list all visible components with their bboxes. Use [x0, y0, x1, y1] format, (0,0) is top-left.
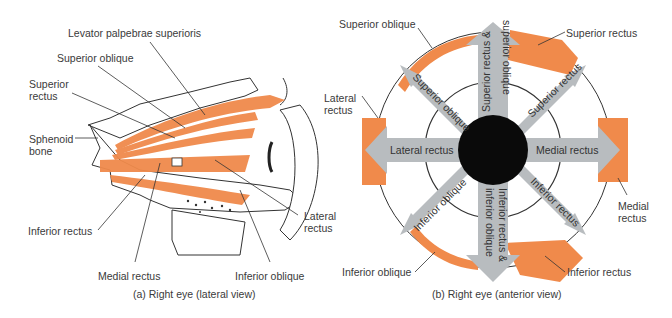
- arrow-label-up-left: Superior oblique: [411, 71, 474, 134]
- arrow-label-up-2: superior oblique: [501, 20, 513, 95]
- label-inferior-rectus-b: Inferior rectus: [567, 266, 631, 278]
- label-lateral-rectus-b-2: rectus: [324, 104, 353, 116]
- label-lateral-rectus-a-1: Lateral: [304, 210, 336, 222]
- arrow-label-left: Lateral rectus: [390, 144, 454, 156]
- extraocular-muscles-figure: Superior rectus & superior oblique Super…: [0, 0, 672, 318]
- label-levator-palpebrae: Levator palpebrae superioris: [68, 27, 201, 39]
- label-superior-rectus-b: Superior rectus: [566, 27, 637, 39]
- arrow-label-up-1: Superior rectus &: [480, 31, 492, 112]
- label-medial-rectus-b-1: Medial: [618, 200, 649, 212]
- arrow-label-down-2: inferior oblique: [484, 188, 496, 257]
- label-superior-rectus-a-1: Superior: [29, 78, 69, 90]
- label-lateral-rectus-a-2: rectus: [304, 222, 333, 234]
- caption-b: (b) Right eye (anterior view): [432, 288, 562, 300]
- label-medial-rectus-a: Medial rectus: [98, 270, 160, 282]
- label-inferior-oblique-a: Inferior oblique: [235, 270, 304, 282]
- arrow-label-down-1: Inferior rectus &: [497, 188, 509, 262]
- arrow-label-right: Medial rectus: [536, 144, 598, 156]
- arrow-label-down-left: Inferior oblique: [411, 176, 469, 234]
- label-lateral-rectus-b-1: Lateral: [324, 92, 356, 104]
- label-superior-rectus-a-2: rectus: [29, 90, 58, 102]
- label-medial-rectus-b-2: rectus: [618, 212, 647, 224]
- label-superior-oblique-b: Superior oblique: [339, 18, 415, 30]
- label-superior-oblique-a: Superior oblique: [57, 52, 133, 64]
- label-inferior-rectus-a: Inferior rectus: [28, 225, 92, 237]
- label-sphenoid-2: bone: [29, 145, 52, 157]
- label-sphenoid-1: Sphenoid: [29, 133, 73, 145]
- caption-a: (a) Right eye (lateral view): [133, 288, 256, 300]
- label-inferior-oblique-b: Inferior oblique: [342, 266, 411, 278]
